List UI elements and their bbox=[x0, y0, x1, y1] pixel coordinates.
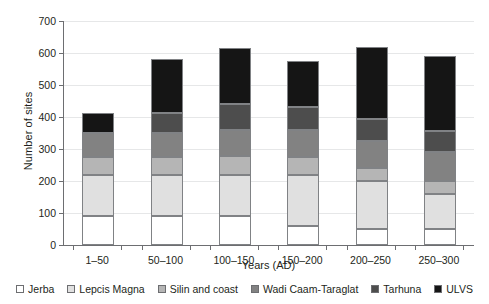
bar-segment[interactable] bbox=[82, 175, 114, 217]
bar-segment[interactable] bbox=[287, 130, 319, 157]
legend-label: Lepcis Magna bbox=[79, 283, 144, 295]
bar-segment[interactable] bbox=[151, 157, 183, 175]
legend-swatch-icon bbox=[371, 285, 379, 293]
legend-item[interactable]: ULVS bbox=[434, 283, 473, 295]
y-tick-mark bbox=[59, 245, 63, 246]
legend-label: ULVS bbox=[446, 283, 473, 295]
bar-segment[interactable] bbox=[356, 47, 388, 119]
y-tick-label: 400 bbox=[38, 112, 56, 123]
y-tick-label: 300 bbox=[38, 144, 56, 155]
y-tick-mark bbox=[59, 21, 63, 22]
x-tick-mark bbox=[258, 245, 259, 250]
legend-label: Silin and coast bbox=[170, 283, 238, 295]
bar-segment[interactable] bbox=[356, 119, 388, 141]
bar-segment[interactable] bbox=[356, 229, 388, 245]
x-tick-mark bbox=[347, 245, 348, 250]
y-tick-label: 100 bbox=[38, 208, 56, 219]
y-tick-label: 200 bbox=[38, 176, 56, 187]
bar-segment[interactable] bbox=[82, 157, 114, 175]
legend-item[interactable]: Tarhuna bbox=[371, 283, 421, 295]
legend-swatch-icon bbox=[158, 285, 166, 293]
x-tick-mark bbox=[210, 245, 211, 250]
bar-segment[interactable] bbox=[219, 175, 251, 217]
legend-item[interactable]: Lepcis Magna bbox=[67, 283, 144, 295]
x-tick-mark bbox=[142, 245, 143, 250]
legend-item[interactable]: Jerba bbox=[16, 283, 54, 295]
bar-segment[interactable] bbox=[356, 141, 388, 168]
y-tick-mark bbox=[59, 149, 63, 150]
bar-segment[interactable] bbox=[424, 152, 456, 181]
bar-segment[interactable] bbox=[287, 175, 319, 226]
plot-area: 0100200300400500600700 1–5050–100100–150… bbox=[63, 21, 473, 245]
bar-segment[interactable] bbox=[82, 113, 114, 133]
legend-swatch-icon bbox=[251, 285, 259, 293]
bar-segment[interactable] bbox=[219, 48, 251, 104]
chart-legend: JerbaLepcis MagnaSilin and coastWadi Caa… bbox=[0, 283, 489, 295]
y-tick-label: 0 bbox=[50, 240, 56, 251]
bar-segment[interactable] bbox=[424, 181, 456, 194]
bar-segment[interactable] bbox=[424, 194, 456, 229]
bar-segment[interactable] bbox=[424, 131, 456, 152]
y-tick-mark bbox=[59, 181, 63, 182]
legend-item[interactable]: Wadi Caam-Taraglat bbox=[251, 283, 358, 295]
bar-segment[interactable] bbox=[151, 59, 183, 113]
bar-segment[interactable] bbox=[151, 113, 183, 133]
bar-segment[interactable] bbox=[219, 130, 251, 156]
legend-label: Wadi Caam-Taraglat bbox=[263, 283, 358, 295]
bar-segment[interactable] bbox=[356, 168, 388, 181]
y-tick-label: 500 bbox=[38, 80, 56, 91]
legend-swatch-icon bbox=[16, 285, 24, 293]
legend-label: Jerba bbox=[28, 283, 54, 295]
bar-segment[interactable] bbox=[287, 107, 319, 129]
bar-segment[interactable] bbox=[219, 156, 251, 175]
x-tick-mark bbox=[278, 245, 279, 250]
x-tick-mark bbox=[190, 245, 191, 250]
legend-swatch-icon bbox=[434, 285, 442, 293]
x-tick-mark bbox=[463, 245, 464, 250]
bar-segment[interactable] bbox=[151, 216, 183, 245]
legend-label: Tarhuna bbox=[383, 283, 421, 295]
x-tick-mark bbox=[395, 245, 396, 250]
stacked-bar-chart: Number of sites 0100200300400500600700 1… bbox=[0, 0, 489, 304]
bar-segment[interactable] bbox=[356, 181, 388, 229]
bar-segment[interactable] bbox=[151, 175, 183, 217]
bar-segment[interactable] bbox=[82, 133, 114, 157]
bar-segment[interactable] bbox=[82, 216, 114, 245]
y-tick-mark bbox=[59, 213, 63, 214]
x-axis-title: Years (AD) bbox=[63, 259, 474, 271]
bar-segment[interactable] bbox=[424, 56, 456, 131]
x-tick-mark bbox=[326, 245, 327, 250]
x-tick-mark bbox=[121, 245, 122, 250]
y-axis-title: Number of sites bbox=[22, 56, 34, 206]
y-tick-label: 700 bbox=[38, 16, 56, 27]
legend-item[interactable]: Silin and coast bbox=[158, 283, 238, 295]
x-tick-mark bbox=[73, 245, 74, 250]
x-axis-line bbox=[63, 245, 474, 246]
x-tick-mark bbox=[415, 245, 416, 250]
y-tick-mark bbox=[59, 85, 63, 86]
bar-segment[interactable] bbox=[287, 157, 319, 175]
y-tick-mark bbox=[59, 53, 63, 54]
bar-segment[interactable] bbox=[287, 61, 319, 107]
y-tick-mark bbox=[59, 117, 63, 118]
bars-layer bbox=[64, 21, 474, 245]
legend-swatch-icon bbox=[67, 285, 75, 293]
bar-segment[interactable] bbox=[219, 216, 251, 245]
bar-segment[interactable] bbox=[287, 226, 319, 245]
y-tick-label: 600 bbox=[38, 48, 56, 59]
bar-segment[interactable] bbox=[219, 104, 251, 130]
bar-segment[interactable] bbox=[151, 133, 183, 157]
bar-segment[interactable] bbox=[424, 229, 456, 245]
